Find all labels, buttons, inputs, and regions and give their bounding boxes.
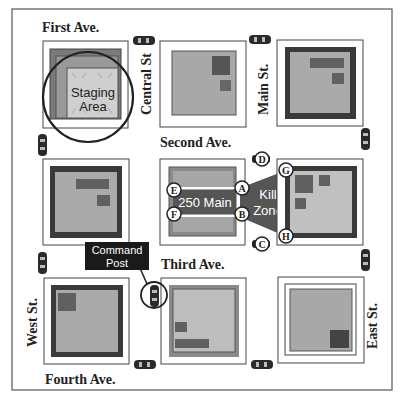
vehicle-icon[interactable] — [361, 249, 370, 271]
street-label-central-st: Central St — [139, 53, 154, 115]
point-a[interactable]: A — [235, 181, 249, 195]
tactical-map: Staging Area First Ave. Central St Main … — [0, 0, 403, 400]
svg-text:Post: Post — [106, 257, 128, 269]
svg-text:Command: Command — [92, 244, 143, 256]
block-north-east[interactable] — [277, 40, 363, 126]
street-label-first-ave: First Ave. — [42, 20, 99, 35]
vehicle-icon[interactable] — [134, 360, 156, 369]
vehicle-icon[interactable] — [133, 36, 155, 45]
street-label-main-st: Main St. — [256, 64, 271, 115]
vehicle-icon[interactable] — [251, 360, 273, 369]
street-label-fourth-ave: Fourth Ave. — [45, 372, 116, 387]
point-g[interactable]: G — [279, 163, 293, 177]
svg-text:C: C — [258, 239, 265, 250]
block-south-east[interactable] — [278, 277, 364, 363]
vehicle-icon[interactable] — [249, 35, 271, 44]
vehicle-icon[interactable] — [38, 134, 47, 156]
svg-text:G: G — [282, 165, 290, 176]
svg-text:B: B — [239, 209, 246, 220]
svg-text:H: H — [282, 231, 290, 242]
street-label-west-st: West St. — [25, 298, 40, 347]
command-post-vehicle-icon[interactable] — [150, 285, 159, 307]
block-staging[interactable]: Staging Area — [43, 41, 133, 142]
block-north-center[interactable] — [160, 41, 246, 127]
point-b[interactable]: B — [235, 207, 249, 221]
vehicle-icon[interactable] — [38, 252, 47, 274]
svg-text:F: F — [171, 209, 177, 220]
vehicle-icon[interactable] — [361, 128, 370, 150]
street-label-east-st: East St. — [365, 303, 380, 349]
street-label-second-ave: Second Ave. — [160, 135, 231, 150]
staging-area-label-2: Area — [79, 99, 107, 114]
svg-text:A: A — [238, 183, 246, 194]
staging-area-label: Staging — [71, 85, 115, 100]
point-f[interactable]: F — [167, 207, 181, 221]
block-250-main[interactable]: 250 Main — [160, 159, 245, 245]
point-h[interactable]: H — [279, 229, 293, 243]
svg-text:D: D — [258, 154, 265, 165]
block-south-center[interactable] — [161, 278, 246, 364]
block-west-center[interactable] — [43, 159, 129, 245]
kill-zone-label: Kill — [259, 187, 276, 202]
point-e[interactable]: E — [167, 183, 181, 197]
block-south-west[interactable] — [44, 278, 129, 364]
svg-text:E: E — [171, 185, 178, 196]
building-label: 250 Main — [178, 195, 231, 210]
command-post-label[interactable]: Command Post — [85, 242, 149, 270]
street-label-third-ave: Third Ave. — [161, 257, 225, 272]
